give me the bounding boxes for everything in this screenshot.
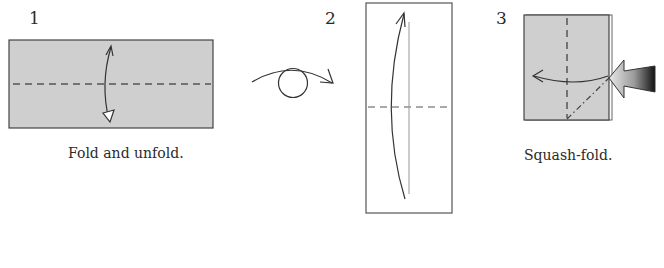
step-1-caption: Fold and unfold. [68, 146, 184, 160]
step-1-number: 1 [29, 10, 40, 27]
step-3-number: 3 [496, 10, 507, 27]
step-3-diagram [524, 15, 655, 120]
turn-over-icon [252, 69, 333, 98]
step-2-diagram [366, 3, 452, 213]
step-1-diagram [9, 40, 213, 128]
push-arrow-icon [609, 60, 655, 98]
step-3-caption: Squash-fold. [524, 148, 612, 162]
step-2-number: 2 [325, 10, 336, 27]
origami-diagram [0, 0, 664, 268]
